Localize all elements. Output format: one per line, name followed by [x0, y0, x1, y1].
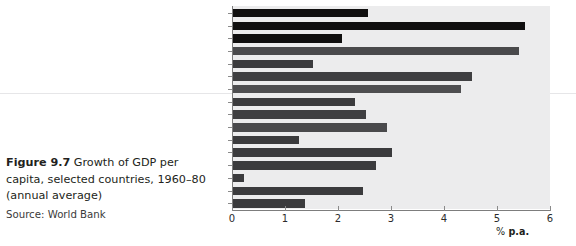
x-tick-mark: [497, 206, 498, 211]
x-tick-mark: [444, 206, 445, 211]
x-tick-label: 3: [379, 213, 403, 224]
x-axis-unit-label: % p.a.: [496, 226, 529, 237]
x-tick-label: 5: [485, 213, 509, 224]
figure-container: Figure 9.7 Growth of GDP per capita, sel…: [0, 0, 576, 246]
per-annum-label: p.a.: [505, 226, 529, 237]
x-tick-label: 6: [538, 213, 562, 224]
percent-symbol: %: [496, 226, 505, 237]
x-tick-label: 4: [432, 213, 456, 224]
x-tick-mark: [232, 206, 233, 211]
x-tick-mark: [285, 206, 286, 211]
x-tick-label: 2: [326, 213, 350, 224]
x-tick-mark: [550, 206, 551, 211]
x-tick-label: 1: [273, 213, 297, 224]
x-tick-mark: [391, 206, 392, 211]
bar-chart: USAJapanUKKoreaChileBrazilMalaysiaSouth …: [0, 0, 576, 246]
x-tick-mark: [338, 206, 339, 211]
x-axis-ticks: 0123456: [0, 0, 576, 246]
x-tick-label: 0: [220, 213, 244, 224]
